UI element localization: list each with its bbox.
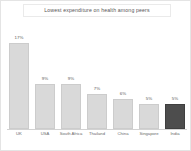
bar-value-label: 7% [94,87,100,91]
bar-rect [9,43,29,129]
bar-value-label: 5% [146,97,152,101]
bar-column: 9% [61,29,81,129]
bar-rect [61,84,81,130]
bar-rect [139,104,159,129]
bar-rect [35,84,55,130]
x-axis-label: UK [7,132,31,136]
chart-title-box: Lowest expenditure on health among peers [23,4,171,17]
x-axis-label: USA [33,132,57,136]
bar-rect [165,104,185,129]
bar-value-label: 9% [42,77,48,81]
bar-rect [113,99,133,129]
bar-value-label: 17% [15,36,24,40]
bar-chart-card: Lowest expenditure on health among peers… [0,0,191,151]
x-axis-label: India [163,132,187,136]
bar-value-label: 6% [120,92,126,96]
bar-column: 9% [35,29,55,129]
bar-value-label: 9% [68,77,74,81]
x-axis-label: China [111,132,135,136]
bar-column: 5% [139,29,159,129]
page-title: Lowest expenditure on health among peers [44,8,150,13]
bar-column: 17% [9,29,29,129]
bar-value-label: 5% [172,97,178,101]
x-axis-label: Singapore [137,132,161,136]
bar-column: 5% [165,29,185,129]
x-axis-line [7,129,187,130]
bar-column: 6% [113,29,133,129]
bar-rect [87,94,107,129]
x-axis-label: South Africa [59,132,83,136]
chart-plot-area: 17%9%9%7%6%5%5% [9,29,185,129]
x-axis-label: Thailand [85,132,109,136]
x-axis-tick-labels: UKUSASouth AfricaThailandChinaSingaporeI… [9,132,185,136]
bar-column: 7% [87,29,107,129]
